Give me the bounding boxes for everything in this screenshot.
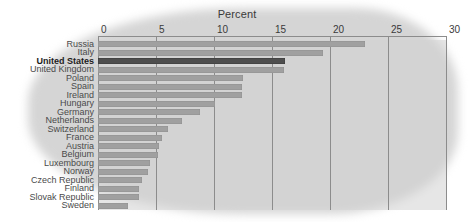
bar-track: [98, 67, 284, 73]
bar-russia: [98, 41, 365, 47]
bar-track: [98, 169, 148, 175]
chart-title: Percent: [0, 8, 474, 20]
bar-track: [98, 58, 285, 64]
bar-spain: [98, 84, 242, 90]
bar-track: [98, 101, 215, 107]
bar-track: [98, 152, 158, 158]
bar-track: [98, 194, 139, 200]
bar-track: [98, 92, 242, 98]
bar-track: [98, 177, 142, 183]
bar-slovak-republic: [98, 194, 139, 200]
bar-france: [98, 135, 162, 141]
bar-luxembourg: [98, 160, 150, 166]
bar-track: [98, 126, 168, 132]
bar-track: [98, 84, 242, 90]
bar-track: [98, 135, 162, 141]
bar-austria: [98, 143, 159, 149]
x-tick-label: 30: [446, 24, 460, 35]
bar-track: [98, 41, 365, 47]
bar-hungary: [98, 101, 215, 107]
bar-germany: [98, 109, 200, 115]
bar-row: Sweden: [0, 202, 474, 211]
bar-switzerland: [98, 126, 168, 132]
bar-track: [98, 203, 128, 209]
bar-netherlands: [98, 118, 182, 124]
bar-rows: RussiaItalyUnited StatesUnited KingdomPo…: [0, 40, 474, 210]
bar-sweden: [98, 203, 128, 209]
bar-track: [98, 186, 139, 192]
bar-ireland: [98, 92, 242, 98]
bar-row: Russia: [0, 40, 474, 49]
bar-track: [98, 109, 200, 115]
bar-italy: [98, 50, 323, 56]
bar-norway: [98, 169, 148, 175]
bar-track: [98, 143, 159, 149]
bar-track: [98, 75, 243, 81]
bar-track: [98, 118, 182, 124]
bar-track: [98, 160, 150, 166]
bar-chart: Percent 051015202530 RussiaItalyUnited S…: [0, 0, 474, 222]
bar-united-kingdom: [98, 67, 284, 73]
bar-finland: [98, 186, 139, 192]
bar-poland: [98, 75, 243, 81]
bar-czech-republic: [98, 177, 142, 183]
bar-track: [98, 50, 323, 56]
bar-belgium: [98, 152, 158, 158]
category-label-sweden: Sweden: [0, 201, 94, 210]
bar-united-states: [98, 58, 285, 64]
